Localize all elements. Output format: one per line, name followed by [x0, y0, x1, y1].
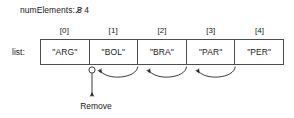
num-elements-new-value: 4	[84, 5, 89, 15]
array-cell-1: "BOL"	[90, 40, 139, 64]
index-label-1: [1]	[89, 25, 138, 37]
shift-arrow-2	[148, 67, 186, 78]
index-label-row: [0] [1] [2] [3] [4]	[40, 25, 284, 37]
remove-caption: Remove	[64, 101, 128, 112]
num-elements-old-value: 5	[77, 4, 82, 16]
index-label-3: [3]	[186, 25, 235, 37]
array-cell-3: "PAR"	[187, 40, 236, 64]
index-label-4: [4]	[235, 25, 284, 37]
list-label: list:	[12, 47, 25, 57]
shift-arrow-1	[100, 67, 138, 78]
num-elements-annotation: numElements:54	[20, 4, 89, 16]
remove-pointer-arrow	[89, 67, 95, 97]
num-elements-label: numElements:	[20, 5, 75, 15]
array-cell-4: "PER"	[235, 40, 283, 64]
array-removal-diagram: numElements:54 list: [0] [1] [2] [3] [4]…	[0, 0, 294, 118]
array-cell-2: "BRA"	[138, 40, 187, 64]
index-label-2: [2]	[138, 25, 187, 37]
array-row: "ARG" "BOL" "BRA" "PAR" "PER"	[40, 39, 284, 65]
index-label-0: [0]	[40, 25, 89, 37]
array-cell-0: "ARG"	[41, 40, 90, 64]
shift-arrow-3	[197, 67, 235, 78]
